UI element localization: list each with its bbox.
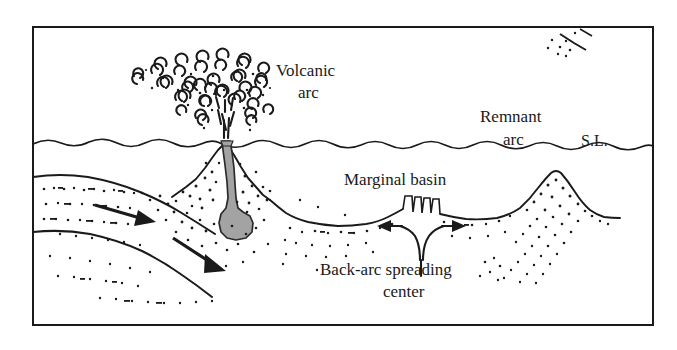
label-volcanic-arc-line1: Volcanic — [276, 61, 336, 80]
page-background — [0, 0, 677, 350]
label-back-arc-line2: center — [383, 282, 425, 301]
label-volcanic-arc-line2: arc — [298, 83, 319, 102]
label-back-arc-line1: Back-arc spreading — [320, 260, 452, 279]
label-marginal-basin: Marginal basin — [344, 170, 447, 189]
label-remnant-arc-line1: Remnant — [480, 107, 542, 126]
label-sea-level: S.L. — [581, 132, 608, 149]
figure-container: Volcanic arc Remnant arc S.L. Marginal b… — [0, 0, 677, 350]
label-remnant-arc-line2: arc — [503, 130, 524, 149]
cross-section-diagram: Volcanic arc Remnant arc S.L. Marginal b… — [0, 0, 677, 350]
magma-vent-neck — [221, 141, 233, 146]
